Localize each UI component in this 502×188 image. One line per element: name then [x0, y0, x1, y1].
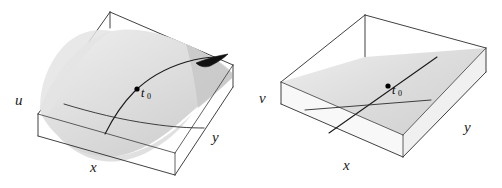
axis-label-y-left: y — [210, 129, 219, 145]
flat-plane-sheet — [281, 48, 486, 157]
point-marker-dot — [385, 83, 390, 88]
point-marker-dot — [134, 86, 139, 91]
axis-label-x-right: x — [342, 157, 350, 173]
point-label-subscript: 0 — [398, 89, 402, 98]
panel-flat-plane-v: t 0 v x y — [251, 0, 502, 188]
axis-label-v: v — [259, 90, 266, 106]
axis-label-y-right: y — [462, 119, 471, 135]
figure-root: t 0 u x y — [0, 0, 502, 188]
panel-curved-surface-u: t 0 u x y — [0, 0, 251, 188]
point-label-subscript: 0 — [147, 92, 151, 101]
axis-label-u: u — [15, 92, 23, 108]
axis-label-x-left: x — [89, 159, 97, 175]
